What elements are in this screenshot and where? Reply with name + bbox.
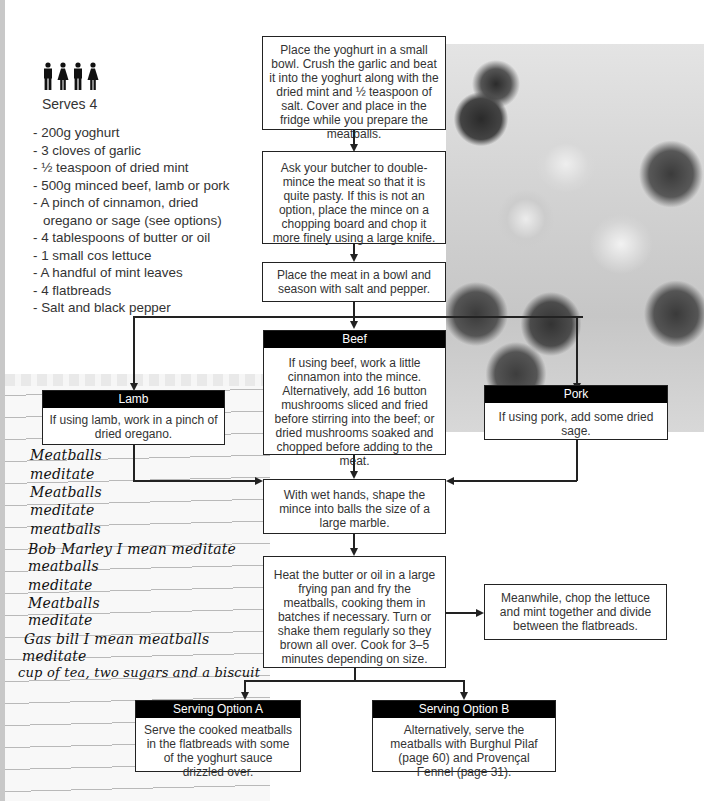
notepad-line: meditate — [22, 648, 86, 664]
ingredient-item: - A pinch of cinnamon, dried oregano or … — [33, 194, 238, 229]
notepad-line: meatballs — [30, 521, 101, 537]
connector — [133, 316, 135, 384]
notepad-line: Gas bill I mean meatballs — [24, 631, 209, 647]
people-icon — [42, 62, 99, 90]
step-fry: Heat the butter or oil in a large frying… — [263, 556, 446, 668]
serving-text: Serve the cooked meatballs in the flatbr… — [136, 718, 300, 785]
step-text: Heat the butter or oil in a large frying… — [274, 568, 435, 666]
connector — [353, 455, 355, 471]
ingredient-item: - 3 cloves of garlic — [33, 142, 238, 160]
notepad-line: meditate — [28, 612, 92, 628]
meatballs-photo — [446, 44, 704, 432]
option-lamb: Lamb If using lamb, work in a pinch of d… — [42, 390, 225, 445]
serving-text: Alternatively, serve the meatballs with … — [373, 718, 555, 785]
arrow-down-icon — [350, 471, 358, 479]
option-pork: Pork If using pork, add some dried sage. — [484, 385, 668, 440]
serves-label: Serves 4 — [42, 96, 97, 112]
option-text: If using lamb, work in a pinch of dried … — [43, 408, 224, 447]
step-yoghurt: Place the yoghurt in a small bowl. Crush… — [262, 36, 446, 130]
option-title: Pork — [485, 386, 667, 403]
woman-icon — [87, 62, 99, 90]
notepad-line: meditate — [30, 502, 94, 518]
step-text: Place the meat in a bowl and season with… — [277, 268, 431, 296]
serving-title: Serving Option B — [373, 701, 555, 718]
arrow-right-icon — [255, 477, 263, 485]
ingredient-item: - 4 flatbreads — [33, 282, 238, 300]
connector — [576, 316, 578, 384]
step-text: With wet hands, shape the mince into bal… — [279, 488, 430, 530]
connector — [133, 445, 135, 481]
ingredient-item: - Salt and black pepper — [33, 299, 238, 317]
connector — [463, 680, 465, 692]
serving-title: Serving Option A — [136, 701, 300, 718]
ingredients-list: - 200g yoghurt - 3 cloves of garlic - ½ … — [33, 124, 238, 317]
arrow-right-icon — [476, 609, 484, 617]
connector — [353, 302, 355, 322]
ingredient-item: - 1 small cos lettuce — [33, 247, 238, 265]
notepad-line: Meatballs — [30, 447, 102, 463]
connector — [576, 440, 578, 481]
option-text: If using pork, add some dried sage. — [485, 403, 667, 444]
notepad-line: meditate — [28, 577, 92, 593]
connector — [454, 480, 577, 482]
notepad-line: Bob Marley I mean meditate — [28, 541, 236, 557]
connector — [353, 130, 355, 144]
option-title: Lamb — [43, 391, 224, 408]
step-text: Ask your butcher to double-mince the mea… — [273, 161, 436, 245]
step-butcher: Ask your butcher to double-mince the mea… — [262, 151, 446, 244]
connector — [244, 680, 246, 692]
arrow-down-icon — [350, 321, 358, 329]
step-text: Place the yoghurt in a small bowl. Crush… — [269, 43, 438, 141]
connector — [353, 534, 355, 548]
notepad-line: meatballs — [28, 558, 99, 574]
ingredient-item: - ½ teaspoon of dried mint — [33, 159, 238, 177]
arrow-down-icon — [241, 692, 249, 700]
notepad-line: meditate — [30, 466, 94, 482]
option-beef: Beef If using beef, work a little cinnam… — [263, 330, 446, 455]
ingredient-item: - 200g yoghurt — [33, 124, 238, 142]
notepad-line: Meatballs — [30, 484, 102, 500]
arrow-left-icon — [446, 477, 454, 485]
step-season: Place the meat in a bowl and season with… — [262, 262, 446, 302]
branch-connector — [244, 680, 464, 682]
step-meanwhile: Meanwhile, chop the lettuce and mint tog… — [484, 584, 667, 640]
arrow-down-icon — [350, 254, 358, 262]
serving-option-a: Serving Option A Serve the cooked meatba… — [135, 700, 301, 772]
notepad-line: cup of tea, two sugars and a biscuit — [18, 665, 260, 680]
ingredient-item: - 4 tablespoons of butter or oil — [33, 229, 238, 247]
ingredient-item: - A handful of mint leaves — [33, 264, 238, 282]
man-icon — [72, 62, 84, 90]
notepad-line: Meatballs — [28, 595, 100, 611]
ingredient-item: - 500g minced beef, lamb or pork — [33, 177, 238, 195]
arrow-down-icon — [460, 692, 468, 700]
connector — [133, 480, 255, 482]
option-title: Beef — [264, 331, 445, 348]
connector — [446, 612, 476, 614]
serving-option-b: Serving Option B Alternatively, serve th… — [372, 700, 556, 772]
man-icon — [42, 62, 54, 90]
woman-icon — [57, 62, 69, 90]
option-text: If using beef, work a little cinnamon in… — [264, 348, 445, 474]
step-text: Meanwhile, chop the lettuce and mint tog… — [500, 591, 651, 633]
connector — [353, 244, 355, 254]
arrow-down-icon — [350, 548, 358, 556]
branch-connector — [133, 316, 583, 318]
step-shape: With wet hands, shape the mince into bal… — [263, 479, 446, 534]
